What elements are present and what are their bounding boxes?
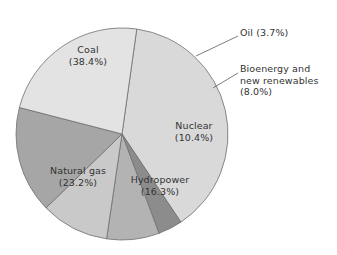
callout-label-bioenergy-line2: new renewables: [240, 75, 336, 87]
callout-label-bioenergy-line3: (8.0%): [240, 86, 336, 98]
callout-label-bioenergy-line1: Bioenergy and: [240, 63, 310, 74]
pie-chart-figure: Coal (38.4%) Natural gas (23.2%) Hydropo…: [0, 0, 337, 255]
callout-label-oil-text: Oil (3.7%): [240, 27, 288, 38]
leader-line-oil: [196, 36, 238, 56]
callout-label-bioenergy: Bioenergy and new renewables (8.0%): [240, 63, 336, 98]
callout-label-oil: Oil (3.7%): [240, 27, 332, 39]
leader-line-bioenergy: [213, 73, 238, 88]
pie-slices: [16, 28, 228, 240]
